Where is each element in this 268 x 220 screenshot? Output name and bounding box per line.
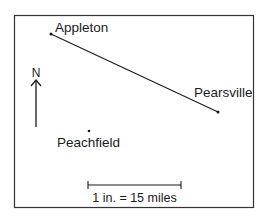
town-label-appleton: Appleton — [55, 20, 108, 35]
town-dot-pearsville — [217, 111, 220, 114]
town-label-peachfield: Peachfield — [57, 135, 120, 150]
town-dot-appleton — [50, 33, 53, 36]
scale-label: 1 in. = 15 miles — [92, 191, 176, 205]
road-line — [51, 34, 218, 112]
town-dot-peachfield — [88, 130, 91, 133]
scale-bar — [88, 181, 181, 189]
town-label-pearsville: Pearsville — [194, 85, 253, 100]
north-arrow-icon — [31, 80, 41, 127]
map-diagram: Appleton Pearsville Peachfield N 1 in. =… — [0, 0, 268, 220]
compass-label: N — [32, 66, 41, 80]
